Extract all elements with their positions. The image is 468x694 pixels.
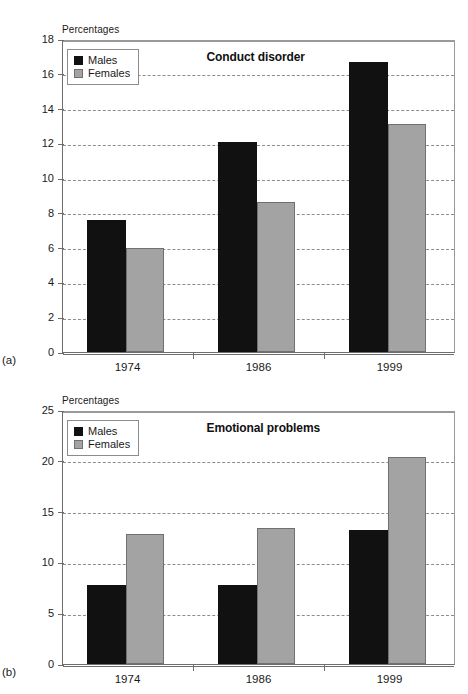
chart-title-a: Conduct disorder	[207, 50, 305, 64]
y-axis-label-4: 4	[24, 277, 54, 288]
x-axis-label-1986: 1986	[229, 361, 289, 373]
legend-label-males: Males	[88, 426, 117, 437]
bar-females-1986	[257, 528, 296, 664]
x-axis-label-1999: 1999	[360, 673, 420, 685]
y-tick-10	[58, 563, 64, 564]
y-axis-label-16: 16	[24, 69, 54, 80]
legend-row-females: Females	[74, 438, 130, 451]
y-axis-label-10: 10	[24, 173, 54, 184]
x-axis-label-1999: 1999	[360, 361, 420, 373]
bar-males-1999	[349, 530, 388, 664]
bar-males-1986	[218, 585, 257, 664]
y-axis-label-10: 10	[24, 557, 54, 568]
bar-females-1974	[126, 534, 165, 664]
bar-males-1986	[218, 142, 257, 352]
y-axis-label-5: 5	[24, 608, 54, 619]
y-axis-label-25: 25	[24, 405, 54, 416]
y-axis-label-2: 2	[24, 312, 54, 323]
legend-label-females: Females	[88, 439, 130, 450]
legend-row-males: Males	[74, 54, 130, 67]
y-tick-14	[58, 109, 64, 110]
y-axis-label-0: 0	[24, 659, 54, 670]
x-tick-0	[193, 353, 194, 359]
chart-title-b: Emotional problems	[207, 421, 321, 435]
y-axis-label-14: 14	[24, 104, 54, 115]
y-axis-label-18: 18	[24, 34, 54, 45]
legend-row-females: Females	[74, 67, 130, 80]
y-axis-label-20: 20	[24, 456, 54, 467]
y-tick-10	[58, 179, 64, 180]
legend-a: MalesFemales	[67, 49, 139, 85]
y-tick-18	[58, 40, 64, 41]
panel-tag-b: (b)	[2, 666, 16, 678]
y-tick-8	[58, 213, 64, 214]
y-tick-20	[58, 461, 64, 462]
legend-b: MalesFemales	[67, 420, 139, 456]
y-tick-5	[58, 614, 64, 615]
legend-swatch-males-icon	[74, 56, 83, 65]
y-tick-6	[58, 248, 64, 249]
bar-females-1974	[126, 248, 165, 352]
legend-row-males: Males	[74, 425, 130, 438]
panel-emotional-problems: Percentages (b) 0510152025197419861999Em…	[0, 386, 468, 694]
y-tick-12	[58, 144, 64, 145]
x-axis-label-1974: 1974	[98, 673, 158, 685]
bar-males-1974	[87, 220, 126, 352]
x-axis-label-1986: 1986	[229, 673, 289, 685]
gridline-14	[63, 110, 454, 111]
y-axis-title-b: Percentages	[62, 395, 119, 406]
y-tick-16	[58, 74, 64, 75]
y-axis-title-a: Percentages	[62, 24, 119, 35]
plot-area-a	[62, 40, 455, 353]
y-tick-0	[58, 665, 64, 666]
legend-swatch-males-icon	[74, 427, 83, 436]
gridline-25	[63, 412, 454, 413]
x-tick-1	[324, 665, 325, 671]
y-axis-label-15: 15	[24, 507, 54, 518]
x-axis-label-1974: 1974	[98, 361, 158, 373]
x-tick-0	[193, 665, 194, 671]
y-tick-4	[58, 283, 64, 284]
legend-label-males: Males	[88, 55, 117, 66]
legend-label-females: Females	[88, 68, 130, 79]
bar-females-1986	[257, 202, 296, 352]
gridline-0	[63, 666, 454, 667]
bar-males-1974	[87, 585, 126, 664]
y-axis-label-8: 8	[24, 208, 54, 219]
bar-females-1999	[388, 457, 427, 664]
gridline-18	[63, 41, 454, 42]
y-tick-15	[58, 512, 64, 513]
gridline-0	[63, 354, 454, 355]
y-axis-label-0: 0	[24, 347, 54, 358]
y-tick-0	[58, 353, 64, 354]
y-tick-2	[58, 318, 64, 319]
panel-tag-a: (a)	[2, 354, 16, 366]
y-axis-label-12: 12	[24, 138, 54, 149]
y-axis-label-6: 6	[24, 243, 54, 254]
panel-conduct-disorder: Percentages (a) 024681012141618197419861…	[0, 0, 468, 386]
y-tick-25	[58, 411, 64, 412]
legend-swatch-females-icon	[74, 69, 83, 78]
legend-swatch-females-icon	[74, 440, 83, 449]
bar-females-1999	[388, 124, 427, 352]
x-tick-1	[324, 353, 325, 359]
bar-males-1999	[349, 62, 388, 352]
